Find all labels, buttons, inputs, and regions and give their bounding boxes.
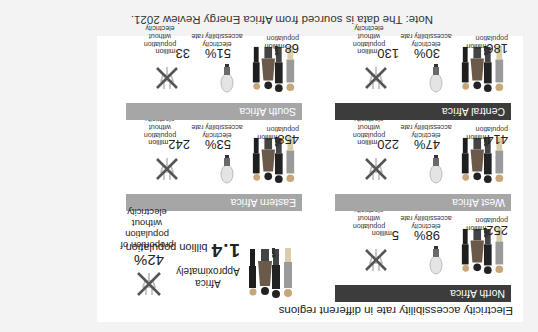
- without-number: 130: [377, 46, 399, 61]
- crossed-out-plug-icon: [152, 154, 182, 184]
- access-rate-value: 51%: [194, 46, 242, 61]
- million-unit: million: [156, 48, 176, 55]
- region-name: North Africa: [450, 288, 505, 300]
- africa-summary: Africa Approximately 1.4 billion populat…: [112, 215, 302, 307]
- access-rate-label: electricity accessibility rate: [190, 123, 244, 139]
- population-label: population: [476, 34, 508, 42]
- crossed-out-plug-icon: [361, 63, 391, 93]
- region-header: South Africa: [126, 103, 302, 120]
- population-number: 186: [486, 41, 508, 56]
- region-west-africa: West Africa 414million population 47% el…: [335, 119, 511, 211]
- summary-africa-label: Africa Approximately: [176, 265, 240, 289]
- population-number: 68: [285, 41, 299, 56]
- access-rate-label: electricity accessibility rate: [399, 123, 453, 139]
- access-rate-value: 53%: [194, 137, 242, 152]
- region-south-africa: South Africa 68million population 51% el…: [126, 28, 302, 120]
- without-electricity-label: population without electricity: [136, 24, 184, 48]
- region-north-africa: North Africa 252million population 98% e…: [335, 210, 511, 302]
- summary-percent-label: proportion of population without electri…: [112, 207, 182, 251]
- million-unit: million: [372, 230, 392, 237]
- region-body: 186million population 30% electricity ac…: [335, 29, 511, 101]
- population-value: 252million: [466, 223, 508, 235]
- population-label: population: [267, 125, 299, 133]
- region-header: Central Africa: [335, 103, 511, 120]
- crossed-out-plug-icon: [361, 245, 391, 275]
- access-rate-label: electricity accessibility rate: [399, 214, 453, 230]
- access-rate-value: 98%: [403, 228, 451, 243]
- summary-approx-label: Approximately: [176, 265, 240, 277]
- region-header: North Africa: [335, 285, 511, 302]
- without-electricity-value: 130million: [357, 46, 399, 61]
- infographic-title: Electricity accessibility rate in differ…: [279, 305, 513, 317]
- population-label: population: [267, 34, 299, 42]
- summary-population-value: 1.4: [211, 240, 240, 261]
- population-number: 252: [486, 223, 508, 238]
- crossed-out-plug-icon: [361, 154, 391, 184]
- people-group-icon: [246, 247, 296, 301]
- without-electricity-value: 33million: [156, 46, 190, 61]
- access-rate-label: electricity accessibility rate: [190, 32, 244, 48]
- population-value: 414million: [466, 132, 508, 144]
- light-bulb-icon: [220, 63, 234, 93]
- light-bulb-icon: [220, 154, 234, 184]
- region-body: 252million population 98% electricity ac…: [335, 211, 511, 283]
- million-unit: million: [466, 43, 486, 50]
- million-unit: million: [148, 139, 168, 146]
- source-note: Note: The data is sourced from Africa En…: [131, 14, 433, 26]
- without-number: 220: [377, 137, 399, 152]
- access-rate-value: 47%: [403, 137, 451, 152]
- population-label: population: [476, 125, 508, 133]
- population-value: 68million: [265, 41, 299, 53]
- summary-region-name: Africa: [176, 277, 240, 289]
- region-header: West Africa: [335, 194, 511, 211]
- region-name: Central Africa: [442, 106, 505, 118]
- million-unit: million: [265, 43, 285, 50]
- region-name: Eastern Africa: [231, 197, 296, 209]
- without-electricity-value: 242million: [148, 137, 190, 152]
- light-bulb-icon: [429, 154, 443, 184]
- without-electricity-value: 220million: [357, 137, 399, 152]
- light-bulb-icon: [429, 245, 443, 275]
- without-electricity-value: 5million: [372, 228, 399, 243]
- million-unit: million: [357, 48, 377, 55]
- region-body: 458million population 53% electricity ac…: [126, 120, 302, 192]
- infographic: Electricity accessibility rate in differ…: [0, 0, 538, 332]
- region-body: 68million population 51% electricity acc…: [126, 29, 302, 101]
- population-number: 414: [486, 132, 508, 147]
- access-rate-label: electricity accessibility rate: [399, 32, 453, 48]
- population-number: 458: [277, 132, 299, 147]
- crossed-out-plug-icon: [134, 269, 164, 299]
- summary-percent: 42%: [134, 252, 164, 269]
- population-value: 186million: [466, 41, 508, 53]
- million-unit: million: [257, 134, 277, 141]
- million-unit: million: [357, 139, 377, 146]
- light-bulb-icon: [429, 63, 443, 93]
- crossed-out-plug-icon: [152, 63, 182, 93]
- population-label: population: [476, 216, 508, 224]
- without-number: 5: [392, 228, 399, 243]
- region-body: 414million population 47% electricity ac…: [335, 120, 511, 192]
- population-value: 458million: [257, 132, 299, 144]
- without-number: 33: [176, 46, 190, 61]
- region-central-africa: Central Africa 186million population 30%…: [335, 28, 511, 120]
- access-rate-value: 30%: [403, 46, 451, 61]
- without-number: 242: [168, 137, 190, 152]
- million-unit: million: [466, 225, 486, 232]
- without-electricity-label: population without electricity: [345, 24, 393, 48]
- region-name: South Africa: [239, 106, 296, 118]
- region-eastern-africa: Eastern Africa 458million population 53%…: [126, 119, 302, 211]
- region-name: West Africa: [452, 197, 505, 209]
- million-unit: million: [466, 134, 486, 141]
